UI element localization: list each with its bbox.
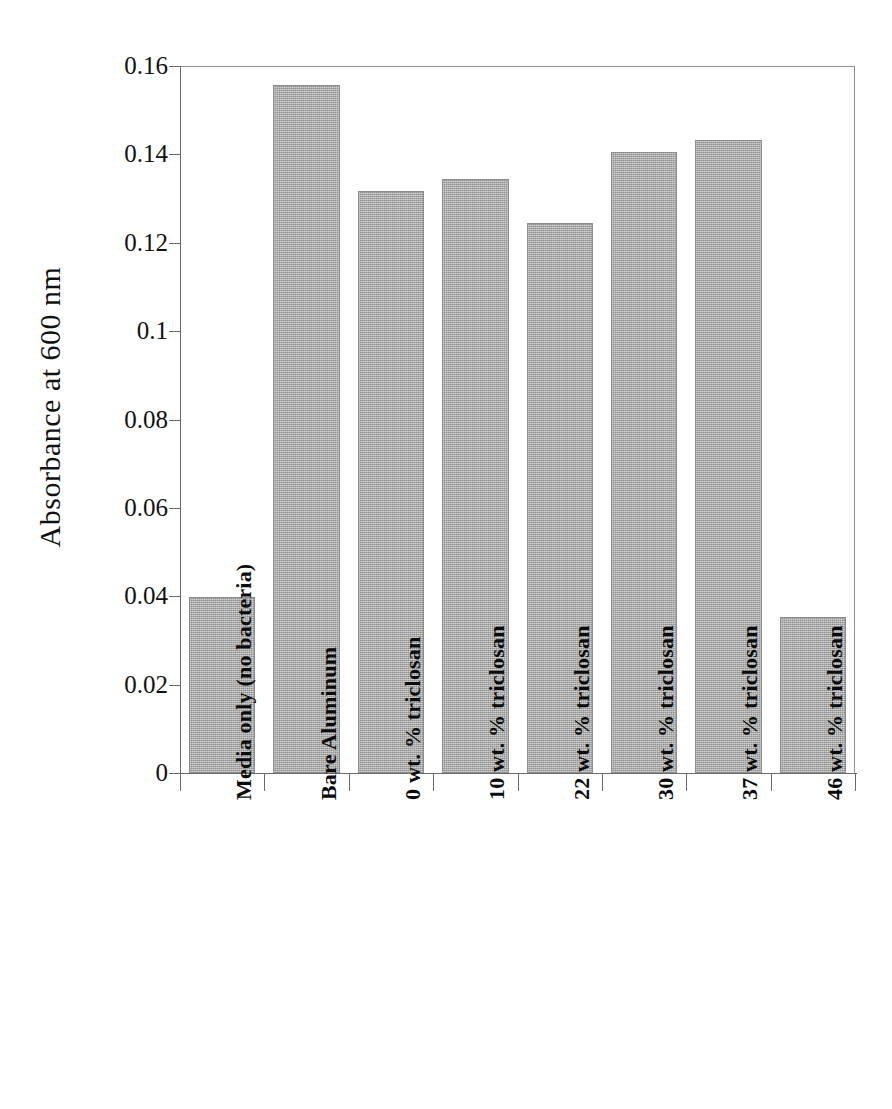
x-axis-category-label: 22 wt. % triclosan bbox=[569, 625, 595, 800]
y-axis-title: Absorbance at 600 nm bbox=[33, 197, 67, 617]
y-axis-tick-label: 0 bbox=[96, 759, 168, 787]
x-axis-category-label: 46 wt. % triclosan bbox=[822, 625, 848, 800]
y-axis-tick-mark bbox=[169, 685, 181, 686]
y-axis-tick-label: 0.12 bbox=[96, 229, 168, 257]
x-axis-category-label-text: 22 wt. % triclosan bbox=[569, 625, 595, 800]
x-axis-tick-mark bbox=[855, 774, 856, 791]
y-axis-tick-label: 0.14 bbox=[96, 140, 168, 168]
x-axis-category-label: 30 wt. % triclosan bbox=[653, 625, 679, 800]
x-axis-tick-mark bbox=[180, 774, 181, 791]
x-axis-tick-mark bbox=[349, 774, 350, 791]
y-axis-tick-label: 0.04 bbox=[96, 582, 168, 610]
y-axis-tick-mark bbox=[169, 420, 181, 421]
x-axis-category-label-text: 0 wt. % triclosan bbox=[400, 637, 426, 801]
y-axis-tick-label-group: 0.160.140.120.10.080.060.040.020 bbox=[96, 0, 168, 800]
y-axis-tick-mark bbox=[169, 508, 181, 509]
x-axis-category-label-text: 37 wt. % triclosan bbox=[737, 625, 763, 800]
x-axis-category-label: 10 wt. % triclosan bbox=[484, 625, 510, 800]
x-axis-tick-mark bbox=[771, 774, 772, 791]
x-axis-tick-mark bbox=[264, 774, 265, 791]
x-axis-category-label-text: 46 wt. % triclosan bbox=[822, 625, 848, 800]
y-axis-tick-mark bbox=[169, 331, 181, 332]
x-axis-tick-mark bbox=[686, 774, 687, 791]
y-axis-tick-label: 0.16 bbox=[96, 52, 168, 80]
x-axis-category-label: Bare Aluminum bbox=[316, 647, 342, 800]
y-axis-tick-mark bbox=[169, 66, 181, 67]
x-axis-category-label: Media only (no bacteria) bbox=[231, 564, 257, 800]
x-axis-category-label: 0 wt. % triclosan bbox=[400, 637, 426, 801]
x-axis-category-label-text: Bare Aluminum bbox=[316, 647, 342, 800]
x-axis-tick-mark bbox=[518, 774, 519, 791]
y-axis-tick-label: 0.08 bbox=[96, 406, 168, 434]
bar-chart-figure: Absorbance at 600 nm 0.160.140.120.10.08… bbox=[0, 0, 892, 1109]
x-axis-tick-mark bbox=[602, 774, 603, 791]
y-axis-tick-mark bbox=[169, 154, 181, 155]
x-axis-category-label: 37 wt. % triclosan bbox=[737, 625, 763, 800]
y-axis-tick-label: 0.02 bbox=[96, 671, 168, 699]
y-axis-tick-mark bbox=[169, 243, 181, 244]
x-axis-category-label-text: 30 wt. % triclosan bbox=[653, 625, 679, 800]
y-axis-tick-mark bbox=[169, 596, 181, 597]
x-axis-tick-mark bbox=[433, 774, 434, 791]
y-axis-tick-label: 0.1 bbox=[96, 317, 168, 345]
y-axis-tick-label: 0.06 bbox=[96, 494, 168, 522]
x-axis-category-label-text: Media only (no bacteria) bbox=[231, 564, 257, 800]
x-axis-category-label-text: 10 wt. % triclosan bbox=[484, 625, 510, 800]
